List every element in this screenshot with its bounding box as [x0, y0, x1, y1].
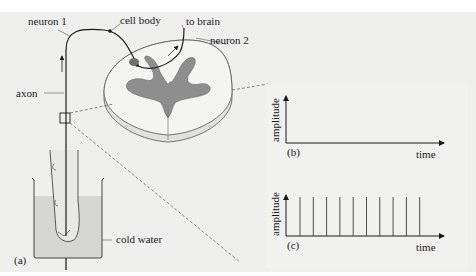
chart-b-label: (b) [287, 146, 300, 159]
panel-a-label: (a) [14, 254, 27, 267]
chart-c-xlabel: time [416, 241, 436, 253]
chart-c-ylabel: amplitude [269, 192, 281, 236]
cell-body-dot [108, 29, 112, 33]
label-cold-water: cold water [116, 233, 162, 245]
spinal-cord [104, 40, 232, 142]
label-neuron-2: neuron 2 [210, 34, 249, 46]
label-axon: axon [16, 87, 38, 99]
label-to-brain: to brain [186, 15, 220, 27]
label-neuron-1: neuron 1 [28, 15, 67, 27]
figure-canvas: neuron 1 cell body to brain neuron 2 axo… [0, 0, 476, 276]
label-cell-body: cell body [120, 14, 161, 26]
chart-b-ylabel: amplitude [269, 98, 281, 142]
chart-c-label: (c) [287, 239, 300, 252]
recording-site-box [60, 113, 70, 123]
chart-b-xlabel: time [416, 148, 436, 160]
